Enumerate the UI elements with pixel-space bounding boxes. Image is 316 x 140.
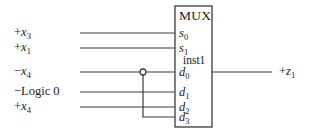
pin-label-d1-index: 1 — [185, 91, 189, 101]
junction-dot-icon — [140, 69, 146, 75]
diagram-canvas: +x3 +x1 −x4 −Logic 0 +x4 MUX inst1 s0 s1… — [0, 0, 316, 140]
input-label-d1-text: − — [14, 84, 21, 98]
input-label-s0-sub: 3 — [27, 31, 31, 41]
input-label-s1-sub: 1 — [27, 46, 31, 56]
input-label-d0-sub: 4 — [27, 70, 31, 80]
input-label-s0: +x3 — [14, 26, 31, 39]
pin-label-s0: s0 — [179, 27, 188, 40]
input-label-s1: +x1 — [14, 41, 31, 54]
mux-block-title: MUX — [179, 9, 211, 23]
input-label-d0-text: − — [14, 64, 21, 78]
pin-label-d3-index: 3 — [185, 116, 189, 126]
pin-label-d0: d0 — [179, 66, 190, 79]
pin-label-d3: d3 — [179, 111, 190, 124]
output-label-z1: +z1 — [279, 65, 295, 78]
pin-label-d0-index: 0 — [185, 71, 189, 81]
input-label-s0-var: x — [21, 25, 27, 39]
input-label-d2-var: x — [21, 99, 27, 113]
input-label-s1-text: + — [14, 40, 21, 54]
input-label-s1-var: x — [21, 40, 27, 54]
input-label-d0-var: x — [21, 64, 27, 78]
input-label-s0-text: + — [14, 25, 21, 39]
output-label-sub: 1 — [291, 70, 295, 80]
output-label-sign: + — [279, 64, 286, 78]
input-label-d1: −Logic 0 — [14, 85, 60, 98]
input-label-d2-text: + — [14, 99, 21, 113]
wire-d0-to-d3-branch — [143, 72, 175, 117]
pin-label-s1: s1 — [179, 42, 188, 55]
mux-schematic — [0, 0, 316, 140]
input-label-d1-var: Logic 0 — [21, 84, 60, 98]
pin-label-s1-index: 1 — [184, 47, 188, 57]
input-label-d2: +x4 — [14, 100, 31, 113]
pin-label-s0-index: 0 — [184, 32, 188, 42]
pin-label-d1: d1 — [179, 86, 190, 99]
input-label-d2-sub: 4 — [27, 105, 31, 115]
input-label-d0: −x4 — [14, 65, 31, 78]
